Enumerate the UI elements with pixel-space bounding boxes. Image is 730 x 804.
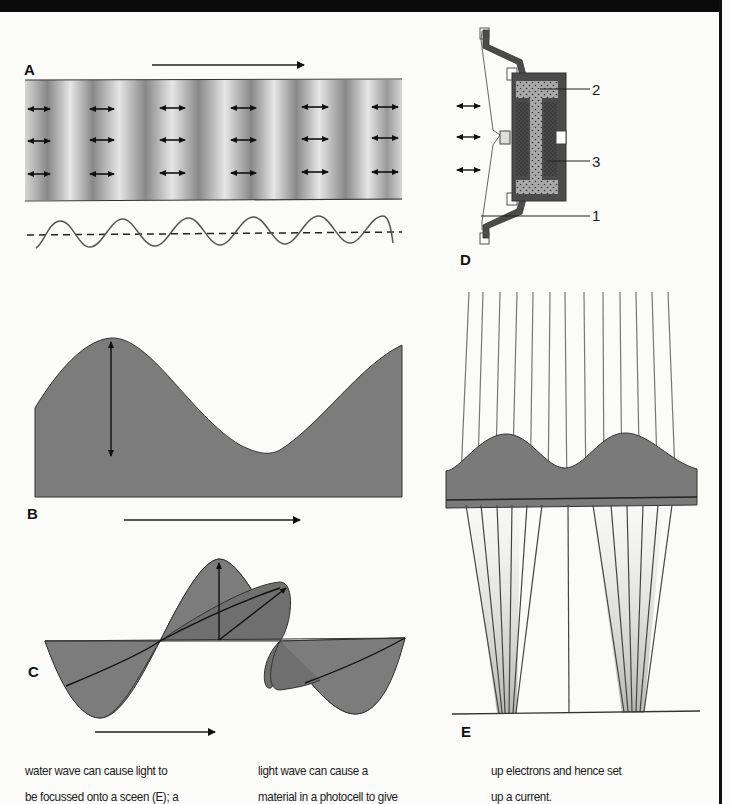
caption-line: up a current.	[491, 784, 621, 804]
caption-line: water wave can cause light to	[25, 758, 178, 784]
screen-line	[452, 711, 700, 714]
label-c: C	[28, 663, 39, 680]
magnet-right	[544, 102, 557, 176]
caption-line: up electrons and hence set	[491, 758, 621, 784]
right-margin	[722, 0, 730, 804]
panel-e: E	[446, 292, 700, 740]
magnet-left	[516, 102, 528, 176]
caption-column-2: light wave can cause a material in a pho…	[258, 758, 398, 804]
callout-2: 2	[592, 81, 600, 98]
caption-column-1: water wave can cause light to be focusse…	[25, 758, 178, 804]
callout-1: 1	[592, 207, 600, 224]
panel-a: A	[24, 61, 402, 248]
label-a: A	[24, 61, 35, 78]
compression-band	[25, 80, 402, 200]
label-e: E	[461, 723, 471, 740]
e-field-lower-left	[45, 641, 160, 718]
panel-b: B	[27, 338, 402, 522]
panel-c: C	[28, 559, 405, 732]
wave-diagram-figure: A B	[0, 0, 730, 804]
caption-line: light wave can cause a	[258, 758, 398, 784]
caption-column-3: up electrons and hence set up a current.	[491, 758, 621, 804]
caption-line: be focussed onto a sceen (E); a	[25, 784, 178, 804]
equilibrium-line	[27, 232, 402, 235]
label-b: B	[27, 505, 38, 522]
label-d: D	[460, 251, 471, 268]
callout-3: 3	[592, 153, 600, 170]
caption-line: material in a photocell to give	[258, 784, 398, 804]
panel-d: 2 3 1 D	[457, 28, 600, 268]
water-wave-profile	[35, 338, 402, 497]
